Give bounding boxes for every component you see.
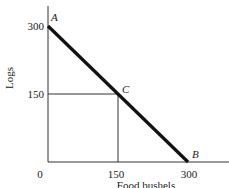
x-axis-label: Food bushels — [117, 179, 175, 188]
x-tick-0: 0 — [37, 168, 43, 180]
x-tick-300: 300 — [181, 168, 198, 180]
ppf-chart: 300 150 0 150 300 Food bushels Logs A C … — [0, 0, 229, 188]
y-axis-label: Logs — [3, 67, 15, 89]
y-tick-150: 150 — [28, 88, 45, 100]
point-b-label: B — [192, 148, 199, 160]
y-tick-300: 300 — [28, 20, 45, 32]
point-c-label: C — [122, 83, 130, 95]
point-a-label: A — [50, 11, 58, 23]
